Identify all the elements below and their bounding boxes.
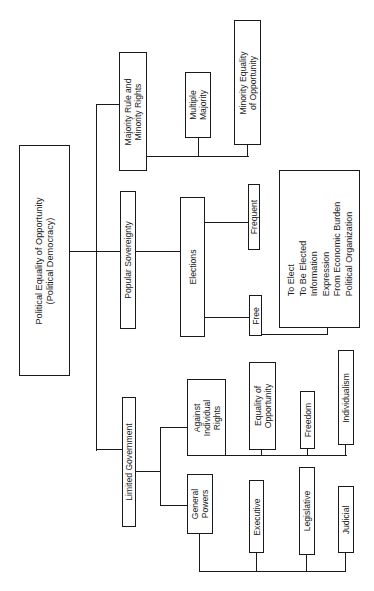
node-popular-sovereignty-label: Popular Sovereignty [123, 221, 133, 298]
connector-to-freedom [307, 448, 308, 456]
connector-to-legislative [306, 554, 307, 572]
node-against-individual-rights-label: Against Individual Rights [192, 399, 222, 435]
connector-to-general-powers [160, 505, 188, 506]
node-legislative-label: Legislative [302, 491, 312, 532]
node-general-powers: General Powers [187, 474, 213, 534]
node-root-label: Political Equality of Opportunity (Polit… [34, 197, 56, 324]
node-frequent: Frequent [248, 184, 260, 250]
node-free-rights-list: To Elect To Be Elected Information Expre… [279, 170, 360, 328]
node-executive-label: Executive [252, 498, 262, 535]
connector-free-to-list-v [327, 327, 328, 335]
node-popular-sovereignty: Popular Sovereignty [120, 191, 136, 329]
connector-to-equality [261, 449, 262, 456]
node-minority-equality-label: Minority Equality of Opportunity [238, 51, 258, 114]
node-limited-government: Limited Government [122, 397, 136, 527]
connector-general-powers-down [199, 533, 200, 572]
node-free-rights-list-label: To Elect To Be Elected Information Expre… [285, 202, 354, 297]
node-free-label: Free [251, 307, 261, 325]
connector-to-limited-government [96, 449, 123, 450]
connector-free-to-list-h [255, 334, 328, 335]
connector-to-popular-sovereignty [96, 251, 121, 252]
node-freedom-label: Freedom [303, 403, 313, 437]
node-majority-rule: Majority Rule and Minority Rights [119, 52, 147, 171]
connector-to-elections [135, 251, 181, 252]
connector-to-executive [256, 552, 257, 572]
connector-to-frequent [204, 222, 249, 223]
node-individualism-label: Individualism [341, 373, 351, 423]
node-limited-government-label: Limited Government [124, 423, 134, 500]
node-judicial-label: Judicial [341, 505, 351, 534]
node-equality-of-opportunity: Equality of Opportunity [249, 362, 276, 450]
connector-to-majority-rule [96, 104, 120, 105]
node-elections: Elections [180, 197, 205, 337]
connector-general-powers-bus [199, 571, 346, 572]
node-equality-of-opportunity-label: Equality of Opportunity [253, 384, 273, 428]
node-general-powers-label: General Powers [190, 489, 210, 520]
connector-to-minority-equality [247, 145, 248, 157]
node-elections-label: Elections [188, 250, 198, 285]
node-multiple-majority: Multiple Majority [185, 72, 211, 138]
node-multiple-majority-label: Multiple Majority [188, 90, 208, 120]
node-frequent-label: Frequent [249, 200, 259, 234]
connector-to-multiple-majority [198, 138, 199, 157]
connector-spine [96, 104, 97, 451]
connector-to-judicial [345, 552, 346, 572]
node-individualism: Individualism [338, 350, 354, 445]
connector-root-spine [70, 251, 97, 252]
node-majority-rule-label: Majority Rule and Minority Rights [123, 78, 143, 145]
node-against-individual-rights: Against Individual Rights [187, 379, 226, 456]
node-free: Free [249, 295, 262, 336]
node-root: Political Equality of Opportunity (Polit… [19, 145, 70, 376]
connector-to-against-rights [160, 427, 188, 428]
connector-limited-gov-vertical [160, 427, 161, 506]
node-minority-equality: Minority Equality of Opportunity [234, 20, 261, 145]
connector-to-individualism [345, 444, 346, 456]
connector-to-free [204, 317, 250, 318]
connector-limited-gov-out [135, 471, 161, 472]
node-judicial: Judicial [338, 486, 354, 553]
node-legislative: Legislative [299, 467, 315, 555]
node-freedom: Freedom [300, 391, 315, 449]
node-executive: Executive [249, 480, 264, 553]
